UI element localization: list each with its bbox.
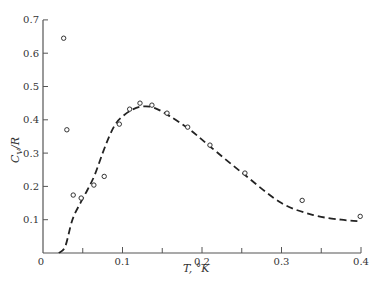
y-tick-label: 0.3: [23, 148, 39, 159]
data-point: [358, 214, 362, 218]
y-tick-label: 0.5: [23, 81, 39, 92]
chart: 0.10.20.30.40.50.60.700.10.20.30.4 T, °K…: [0, 0, 378, 288]
y-tick-label: 0.6: [23, 48, 39, 59]
y-tick-label: 0.1: [23, 214, 39, 225]
data-point: [117, 122, 121, 126]
y-tick-label: 0.2: [23, 181, 39, 192]
data-point: [208, 143, 212, 147]
data-point: [92, 183, 96, 187]
data-point: [61, 36, 65, 40]
data-point: [127, 107, 131, 111]
data-point: [65, 128, 69, 132]
data-point: [150, 103, 154, 107]
data-point: [102, 174, 106, 178]
axes: 0.10.20.30.40.50.60.700.10.20.30.4: [23, 14, 369, 267]
x-tick-label: 0: [38, 256, 44, 267]
y-tick-label: 0.7: [23, 14, 39, 25]
data-points: [61, 36, 362, 219]
data-point: [300, 198, 304, 202]
data-point: [165, 111, 169, 115]
x-tick-label: 0.1: [115, 256, 131, 267]
x-tick-label: 0.3: [274, 256, 290, 267]
data-point: [71, 193, 75, 197]
x-tick-label: 0.4: [353, 256, 369, 267]
y-axis-label: CV/R: [9, 137, 24, 163]
data-point: [79, 196, 83, 200]
data-point: [138, 101, 142, 105]
x-axis-label: T, °K: [183, 262, 210, 275]
data-point: [243, 171, 247, 175]
theory-curve: [59, 106, 361, 253]
y-tick-label: 0.4: [23, 114, 39, 125]
theory-curve-path: [59, 106, 361, 253]
data-point: [185, 125, 189, 129]
svg-text:CV/R: CV/R: [9, 137, 24, 163]
axis-labels: T, °K CV/R: [9, 137, 210, 275]
